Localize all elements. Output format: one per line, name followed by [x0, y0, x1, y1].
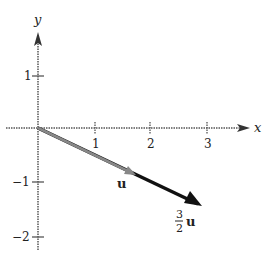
x-axis [6, 122, 250, 134]
vector-three-halves-u-label: 3 2 u [175, 208, 195, 235]
svg-text:u: u [186, 214, 195, 229]
y-tick-neg2: −2 [12, 230, 30, 244]
vector-three-halves-u-arrowhead [184, 191, 202, 206]
y-tick-1: 1 [24, 69, 32, 83]
x-tick-2: 2 [147, 137, 155, 151]
vector-u [38, 128, 132, 173]
x-tick-3: 3 [204, 137, 212, 151]
y-axis-label: y [33, 12, 42, 27]
y-tick-neg1: −1 [12, 175, 30, 189]
svg-text:2: 2 [176, 222, 183, 235]
x-tick-1: 1 [92, 137, 100, 151]
x-axis-label: x [254, 120, 262, 135]
svg-text:3: 3 [176, 208, 183, 221]
vector-u-arrowhead [124, 166, 136, 175]
y-axis [32, 32, 44, 250]
vector-diagram: x y 1 2 3 1 −1 −2 u 3 2 u [0, 0, 262, 253]
vector-u-label: u [117, 176, 126, 191]
